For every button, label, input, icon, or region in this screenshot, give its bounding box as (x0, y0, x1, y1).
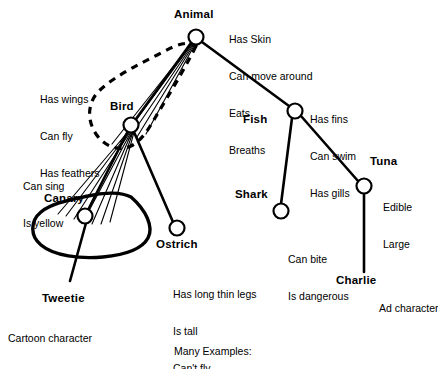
attributes-shark: Can bite Is dangerous (288, 228, 349, 327)
attributes-canary: Can sing Is yellow (23, 155, 64, 254)
isa-edge-tweetie-canary (70, 223, 86, 281)
attribute-item: Can sing (23, 180, 64, 192)
attribute-item: Large (383, 238, 412, 250)
attributes-animal: Has Skin Can move around Eats Breaths (229, 8, 312, 181)
node-label-shark: Shark (235, 188, 268, 202)
attribute-item: Is dangerous (288, 290, 349, 302)
node-circle-bird (124, 118, 139, 133)
attributes-charlie: Ad character (379, 277, 438, 339)
diagram-caption: Many Examples: A Region Based Semantic N… (174, 318, 296, 369)
attribute-item: Has long thin legs (173, 288, 256, 300)
node-label-ostrich: Ostrich (156, 238, 198, 252)
node-label-bird: Bird (110, 100, 134, 114)
node-circle-ostrich (170, 221, 185, 236)
attribute-item: Has gills (310, 187, 356, 199)
attribute-item: Ad character (379, 302, 438, 314)
attribute-item: Can move around (229, 70, 312, 82)
node-label-animal: Animal (174, 8, 214, 22)
attributes-tuna: Edible Large (383, 176, 412, 275)
attribute-item: Is yellow (23, 217, 64, 229)
caption-line-1: Many Examples: (174, 345, 296, 358)
semantic-network-diagram: Animal Bird Fish Canary Ostrich Shark Tu… (0, 0, 438, 369)
attribute-item: Can swim (310, 150, 356, 162)
node-circle-shark (274, 204, 289, 219)
attribute-item: Edible (383, 201, 412, 213)
attributes-tweetie: Cartoon character Cute (8, 307, 92, 369)
attribute-item: Eats (229, 107, 312, 119)
node-circle-animal (189, 30, 204, 45)
attribute-item: Cartoon character (8, 332, 92, 344)
isa-edge-bird-animal (136, 43, 191, 119)
attribute-item: Can bite (288, 253, 349, 265)
attribute-item: Has fins (310, 113, 356, 125)
node-label-tuna: Tuna (370, 155, 397, 169)
attribute-item: Can fly (40, 130, 100, 142)
node-label-tweetie: Tweetie (42, 292, 85, 306)
attribute-item: Breaths (229, 144, 312, 156)
attribute-item: Has wings (40, 93, 100, 105)
attribute-item: Has Skin (229, 33, 312, 45)
attributes-fish: Has fins Can swim Has gills (310, 88, 356, 224)
node-circle-tuna (357, 179, 372, 194)
node-circle-canary (78, 209, 93, 224)
